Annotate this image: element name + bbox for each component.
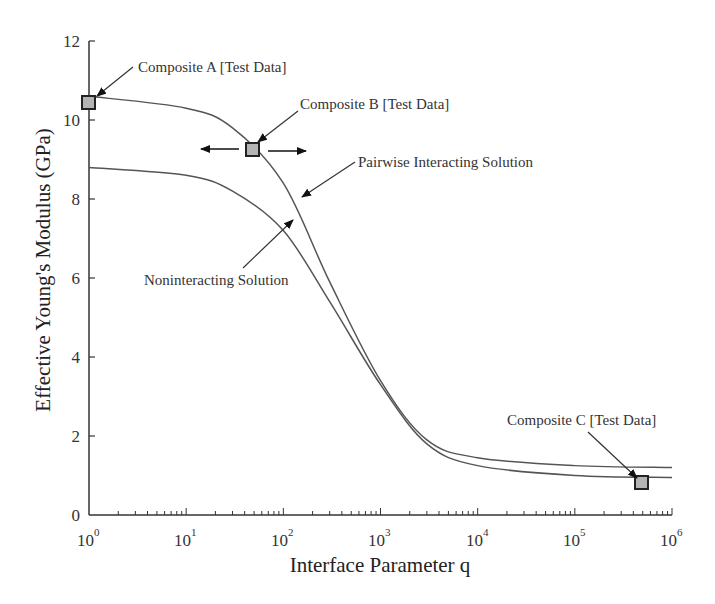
x-tick-1e6: 106 <box>660 526 683 550</box>
svg-text:10: 10 <box>660 531 677 550</box>
x-tick-1e4: 104 <box>466 526 489 550</box>
svg-text:2: 2 <box>288 526 294 538</box>
x-axis <box>89 508 672 515</box>
pairwise-label: Pairwise Interacting Solution <box>358 154 533 170</box>
y-tick-2: 2 <box>72 427 81 446</box>
y-tick-6: 6 <box>72 269 81 288</box>
y-tick-12: 12 <box>63 32 80 51</box>
svg-text:0: 0 <box>94 526 100 538</box>
svg-text:5: 5 <box>580 526 586 538</box>
composite-c-label: Composite C [Test Data] <box>507 412 656 428</box>
svg-text:10: 10 <box>77 531 94 550</box>
composite-c-arrow-icon <box>588 432 637 478</box>
noninteracting-label: Noninteracting Solution <box>144 272 289 288</box>
y-axis-title: Effective Young's Modulus (GPa) <box>31 128 55 411</box>
y-tick-4: 4 <box>72 348 81 367</box>
noninteracting-arrow-icon <box>243 220 293 268</box>
svg-text:10: 10 <box>271 531 288 550</box>
x-tick-1e5: 105 <box>563 526 586 550</box>
y-axis <box>89 41 95 515</box>
svg-text:4: 4 <box>483 526 489 538</box>
y-tick-labels: 0 2 4 6 8 10 12 <box>63 32 81 525</box>
composite-a-arrow-icon <box>97 67 133 96</box>
y-tick-8: 8 <box>72 190 81 209</box>
x-tick-1e0: 100 <box>77 526 100 550</box>
x-tick-labels: 100 101 102 103 104 105 106 <box>77 526 683 550</box>
composite-a-label: Composite A [Test Data] <box>138 59 287 75</box>
x-axis-title: Interface Parameter q <box>290 553 471 577</box>
x-tick-1e3: 103 <box>368 526 391 550</box>
svg-text:10: 10 <box>174 531 191 550</box>
noninteracting-curve <box>89 167 672 477</box>
x-tick-1e1: 101 <box>174 526 197 550</box>
composite-b-marker <box>246 143 259 156</box>
svg-text:10: 10 <box>563 531 580 550</box>
svg-text:3: 3 <box>385 526 391 538</box>
y-tick-10: 10 <box>63 111 80 130</box>
composite-b-arrow-icon <box>258 111 298 142</box>
svg-text:10: 10 <box>368 531 385 550</box>
x-tick-1e2: 102 <box>271 526 294 550</box>
y-tick-0: 0 <box>72 506 81 525</box>
pairwise-arrow-icon <box>302 162 355 197</box>
composite-a-marker <box>82 96 95 109</box>
chart-canvas: 0 2 4 6 8 10 12 100 101 102 103 104 105 … <box>0 0 715 604</box>
svg-text:10: 10 <box>466 531 483 550</box>
svg-text:6: 6 <box>677 526 683 538</box>
composite-b-label: Composite B [Test Data] <box>300 96 449 112</box>
svg-text:1: 1 <box>191 526 197 538</box>
